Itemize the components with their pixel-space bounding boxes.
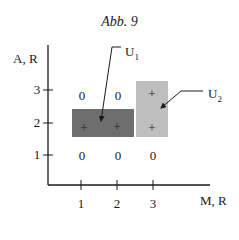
cell-3-2: + [145, 121, 159, 135]
cell-2-3: 0 [111, 89, 125, 103]
x-tick-3: 3 [146, 196, 160, 212]
u2-label: U2 [208, 86, 222, 104]
cell-3-3: + [145, 87, 159, 101]
cell-1-1: 0 [75, 149, 89, 163]
y-tick-3: 3 [30, 82, 44, 98]
cell-2-1: 0 [111, 149, 125, 163]
x-axis-label: M, R [200, 193, 227, 209]
y-tick-2: 2 [30, 115, 44, 131]
x-tick-2: 2 [110, 196, 124, 212]
cell-1-2: + [77, 121, 91, 135]
u1-label: U1 [125, 44, 139, 62]
cell-2-2: + [110, 120, 124, 134]
y-tick-1: 1 [30, 147, 44, 163]
cell-3-1: 0 [146, 149, 160, 163]
cell-1-3: 0 [75, 89, 89, 103]
y-axis-label: A, R [13, 51, 38, 67]
x-tick-1: 1 [74, 196, 88, 212]
